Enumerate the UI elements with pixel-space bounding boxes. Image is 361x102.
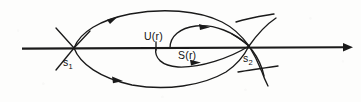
label-layer: s1 s2 U(r) S(r) <box>0 0 361 102</box>
label-unstable-manifold: U(r) <box>144 30 163 42</box>
label-stable-manifold: S(r) <box>178 49 196 61</box>
label-saddle-1: s1 <box>63 56 73 71</box>
phase-portrait-figure: s1 s2 U(r) S(r) <box>0 0 361 102</box>
label-saddle-2-subscript: 2 <box>248 58 252 67</box>
label-saddle-1-subscript: 1 <box>68 62 72 71</box>
label-saddle-2: s2 <box>243 52 253 67</box>
